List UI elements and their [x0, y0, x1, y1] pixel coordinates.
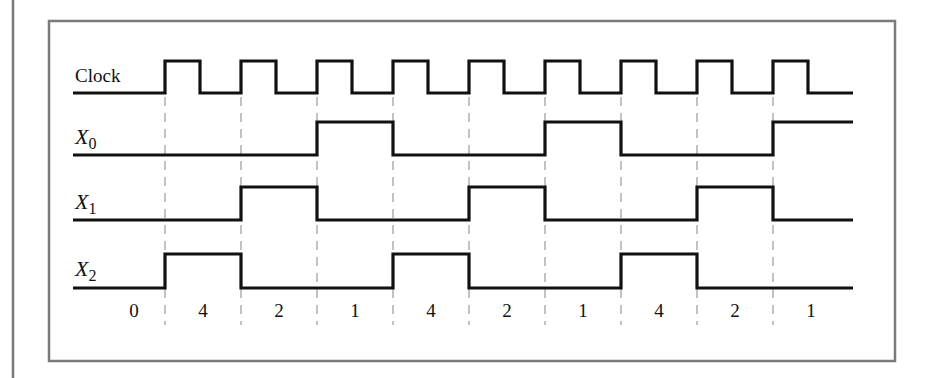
- state-value: 4: [188, 301, 218, 320]
- state-value: 2: [720, 301, 750, 320]
- state-value: 1: [568, 301, 598, 320]
- state-value: 4: [416, 301, 446, 320]
- x0-label-text: X: [75, 124, 88, 149]
- state-value: 0: [119, 301, 149, 320]
- state-value: 2: [264, 301, 294, 320]
- waveforms: [73, 61, 853, 288]
- timing-diagram-canvas: [0, 0, 939, 378]
- signal-label-x2: X2: [75, 258, 96, 284]
- figure-frame: [49, 21, 895, 361]
- signal-label-clock: Clock: [75, 66, 120, 85]
- x0-label-subscript: 0: [88, 135, 96, 152]
- x0-waveform: [73, 122, 853, 155]
- state-value: 1: [796, 301, 826, 320]
- x2-waveform: [73, 254, 853, 288]
- x1-waveform: [73, 187, 853, 220]
- x2-label-text: X: [75, 256, 88, 281]
- state-value: 1: [340, 301, 370, 320]
- x1-label-subscript: 1: [88, 200, 96, 217]
- clock-label-text: Clock: [75, 65, 120, 86]
- timing-diagram: Clock X0 X1 X2 0 4 2 1 4 2 1 4 2 1: [0, 0, 939, 378]
- signal-label-x1: X1: [75, 191, 96, 217]
- signal-label-x0: X0: [75, 126, 96, 152]
- state-value: 4: [644, 301, 674, 320]
- x2-label-subscript: 2: [88, 267, 96, 284]
- clock-waveform: [73, 61, 853, 93]
- state-value: 2: [492, 301, 522, 320]
- x1-label-text: X: [75, 189, 88, 214]
